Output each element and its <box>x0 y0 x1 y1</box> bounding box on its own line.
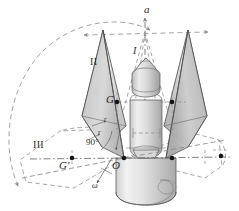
point-G <box>115 100 120 105</box>
label-radius-lower: r <box>98 129 101 136</box>
label-omega: ω <box>92 182 98 190</box>
label-cone-I: I <box>133 46 137 56</box>
label-radius-upper: r <box>104 116 107 123</box>
point-far-right <box>219 154 224 159</box>
point-G-prime <box>70 156 75 161</box>
cone-right <box>164 30 207 158</box>
rotor-hub <box>126 93 166 158</box>
lower-shaft <box>116 158 176 205</box>
point-G-right <box>170 100 175 105</box>
top-knob <box>132 58 160 97</box>
label-cone-II: II <box>90 57 97 67</box>
label-G: G <box>106 94 114 105</box>
mechanics-diagram <box>0 0 239 211</box>
label-axis-a: a <box>144 4 150 15</box>
point-O <box>122 156 127 161</box>
label-right-angle: 90° <box>86 138 99 147</box>
label-cone-III: III <box>33 140 44 150</box>
label-O: O <box>112 160 120 171</box>
point-right-base <box>170 156 175 161</box>
label-G-prime: G′ <box>59 160 69 171</box>
